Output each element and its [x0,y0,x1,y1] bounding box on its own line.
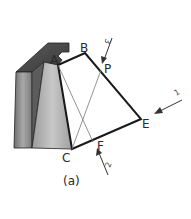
arrow-1-label: 1 [173,87,182,97]
arrow-3: 3 [101,37,113,64]
label-e: E [142,117,150,131]
arrowhead-icon [154,107,163,114]
arrow-3-label: 3 [102,37,112,45]
figure-caption: (a) [63,174,80,188]
wedge-outline [58,53,141,149]
block-left-face [14,72,32,148]
wedge-diagram: A B P E C F 3 1 2 (a) [0,0,191,219]
arrow-2: 2 [96,148,114,175]
arrow-1: 1 [154,87,182,114]
label-c: C [62,151,70,165]
label-b: B [80,41,88,55]
label-p: P [104,62,111,76]
label-a: A [50,53,59,67]
